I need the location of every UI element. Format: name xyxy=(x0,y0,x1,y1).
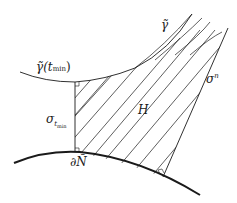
label-sigma-tmin-main: σ xyxy=(46,112,54,126)
label-sigma-n: σn xyxy=(206,73,219,85)
label-gamma-tmin: γ̃(tmin) xyxy=(36,61,71,73)
label-gamma-tmin-main: γ̃(t xyxy=(36,60,53,74)
label-sigma-tmin: σtmin xyxy=(46,113,67,125)
label-gamma-tmin-close: ) xyxy=(66,60,71,74)
label-boundary: ∂Ñ xyxy=(70,156,87,168)
geometry-diagram xyxy=(0,0,237,203)
right-angle-marker-top xyxy=(75,82,79,86)
label-gamma-tmin-sub: min xyxy=(53,65,66,73)
label-region-h: H xyxy=(138,104,148,116)
label-gamma: γ̃ xyxy=(161,19,168,31)
label-sigma-n-main: σ xyxy=(206,72,214,86)
boundary-curve xyxy=(14,152,200,195)
label-sigma-n-sup: n xyxy=(214,72,219,80)
label-sigma-tmin-subsub: min xyxy=(57,123,67,129)
